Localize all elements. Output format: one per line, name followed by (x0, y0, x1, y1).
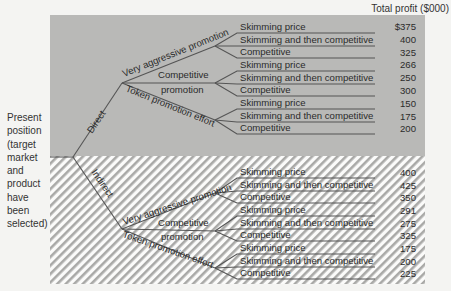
option-label: Competitive (240, 229, 291, 240)
option-label: Skimming price (240, 97, 306, 108)
profit-value: 400 (400, 34, 416, 45)
promotion-label-competitive-line1: Competitive (158, 69, 209, 80)
profit-value: $375 (395, 21, 416, 32)
option-label: Skimming and then competitive (240, 217, 373, 228)
profit-value: 325 (400, 230, 416, 241)
option-label: Competitive (240, 122, 291, 133)
decision-tree: Direct Indirect Very aggressive promotio… (0, 0, 451, 291)
option-label: Competitive (240, 46, 291, 57)
profit-value: 300 (400, 85, 416, 96)
option-label: Competitive (240, 267, 291, 278)
option-label: Skimming and then competitive (240, 72, 373, 83)
profit-value: 291 (400, 205, 416, 216)
option-label: Skimming and then competitive (240, 179, 373, 190)
promotion-label-competitive-line1: Competitive (158, 217, 209, 228)
option-label: Skimming price (240, 204, 306, 215)
profit-value: 350 (400, 192, 416, 203)
profit-value: 150 (400, 98, 416, 109)
option-label: Skimming price (240, 59, 306, 70)
option-label: Competitive (240, 191, 291, 202)
promotion-label-competitive-line2: promotion (161, 84, 204, 95)
profit-value: 175 (400, 111, 416, 122)
profit-value: 250 (400, 72, 416, 83)
option-label: Competitive (240, 84, 291, 95)
profit-value: 225 (400, 268, 416, 279)
profit-value: 175 (400, 243, 416, 254)
profit-value: 400 (400, 167, 416, 178)
profit-value: 425 (400, 180, 416, 191)
profit-value: 200 (400, 123, 416, 134)
profit-value: 266 (400, 59, 416, 70)
profit-value: 325 (400, 47, 416, 58)
option-label: Skimming and then competitive (240, 110, 373, 121)
profit-value: 200 (400, 256, 416, 267)
option-label: Skimming price (240, 166, 306, 177)
option-label: Skimming price (240, 21, 306, 32)
option-label: Skimming and then competitive (240, 34, 373, 45)
profit-value: 275 (400, 218, 416, 229)
option-label: Skimming price (240, 242, 306, 253)
option-label: Skimming and then competitive (240, 255, 373, 266)
promotion-label-competitive-line2: promotion (161, 231, 204, 242)
